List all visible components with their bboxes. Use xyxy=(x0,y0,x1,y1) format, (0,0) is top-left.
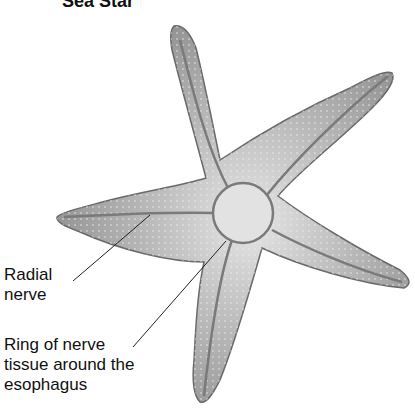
label-radial-nerve: Radial nerve xyxy=(4,265,52,305)
nerve-ring xyxy=(213,183,273,243)
label-nerve-ring: Ring of nerve tissue around the esophagu… xyxy=(4,335,134,395)
